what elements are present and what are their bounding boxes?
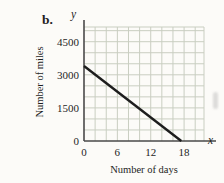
x-axis-title: Number of days [110, 164, 178, 175]
y-tick-label: 3000 [57, 69, 79, 81]
x-tick-label: 12 [145, 146, 156, 158]
y-axis-symbol: y [71, 8, 76, 20]
item-label: b. [42, 12, 53, 28]
x-axis-symbol: x [208, 134, 213, 146]
y-axis-title: Number of miles [34, 46, 45, 117]
x-tick-label: 0 [81, 146, 87, 158]
y-tick-label: 1500 [57, 102, 79, 114]
x-tick-label: 6 [115, 146, 121, 158]
y-tick-label: 0 [74, 135, 80, 147]
scan-artifact [213, 92, 218, 109]
x-tick-label: 18 [179, 146, 190, 158]
y-tick-label: 4500 [57, 36, 79, 48]
figure-panel: b. y x Number of miles Number of days 06… [0, 0, 224, 183]
